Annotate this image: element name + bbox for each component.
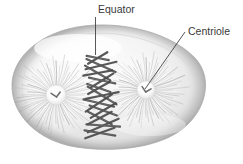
centrosome-hub [137,81,155,99]
figure-canvas: Equator Centriole [0,0,243,164]
equator-label: Equator [98,3,135,15]
centriole-label: Centriole [188,25,230,37]
cell-diagram: Equator Centriole [0,0,243,164]
centrosome-hub [46,85,66,105]
